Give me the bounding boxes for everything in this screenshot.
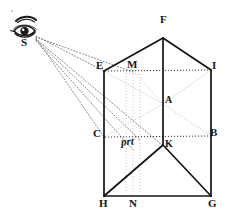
vertex-label-b: B	[210, 127, 217, 138]
ray-S-to-N	[36, 41, 133, 150]
vertex-label-i: I	[212, 60, 216, 71]
ray-S-to-M	[36, 37, 133, 72]
edge-M-top-dotted	[126, 73, 140, 74]
edge-E-I-dotted	[105, 70, 210, 71]
optics-diagram	[0, 0, 232, 221]
edge-F-I	[163, 38, 211, 70]
line-A-to-C	[104, 104, 163, 137]
line-M-to-A	[133, 71, 163, 104]
vertex-label-e: E	[96, 60, 103, 71]
observer-label-s: S	[21, 37, 27, 48]
point-label-prt: prt	[121, 135, 135, 148]
edge-H-K	[104, 145, 163, 196]
vertex-label-m: M	[127, 59, 137, 70]
figure-canvas: S F E M I A C B K H N G prt	[0, 0, 232, 221]
vertex-label-g: G	[208, 198, 217, 209]
vertex-label-c: C	[93, 128, 101, 139]
ray-S-to-prt	[36, 40, 140, 140]
line-A-to-E	[104, 71, 163, 104]
vertex-label-n: N	[129, 198, 137, 209]
solid-edges	[104, 38, 211, 196]
edge-K-G	[163, 145, 211, 196]
vertex-label-a: A	[165, 95, 172, 105]
vertex-label-h: H	[99, 198, 108, 209]
vertex-label-f: F	[160, 14, 167, 25]
ink-speck	[11, 10, 12, 11]
eye-icon	[11, 17, 37, 37]
line-A-to-B	[163, 104, 211, 136]
interior-construction-lines	[104, 70, 211, 137]
vertex-label-k: K	[165, 139, 173, 149]
